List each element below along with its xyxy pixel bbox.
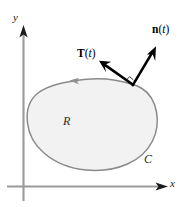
tangent-symbol: T <box>77 47 85 59</box>
region-label-R: R <box>63 115 70 127</box>
closed-curve-C <box>27 79 157 171</box>
tangent-vector-label: T(t) <box>77 48 96 60</box>
y-axis-label: y <box>13 12 18 23</box>
curve-label-C: C <box>144 153 152 165</box>
region-curve-group <box>27 78 157 170</box>
vector-field-region-figure: y x R C T(t) n(t) <box>0 0 193 207</box>
normal-vector-arrow <box>133 46 156 85</box>
normal-close-paren: ) <box>165 23 169 35</box>
normal-vector-label: n(t) <box>152 24 169 36</box>
tangent-close-paren: ) <box>92 47 96 59</box>
x-axis-label: x <box>170 178 175 189</box>
